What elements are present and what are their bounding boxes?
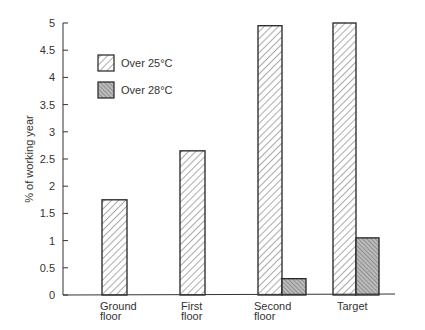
y-tick-label: 4: [49, 71, 55, 83]
legend-swatch-over25: [98, 55, 114, 71]
bar-chart: 00.511.522.533.544.55 % of working year …: [0, 0, 425, 330]
y-tick-label: 1.5: [40, 207, 55, 219]
y-tick-label: 2: [49, 180, 55, 192]
y-tick-label: 1: [49, 235, 55, 247]
y-tick-label: 0.5: [40, 262, 55, 274]
legend-label: Over 28°C: [121, 84, 173, 96]
bar-second-over25: [258, 26, 282, 295]
y-tick-label: 3: [49, 126, 55, 138]
x-category-label-line2: floor: [181, 310, 203, 322]
legend: Over 25°COver 28°C: [98, 55, 173, 98]
bar-target-over28: [356, 238, 379, 295]
y-tick-label: 4.5: [40, 44, 55, 56]
legend-swatch-over28: [98, 82, 114, 98]
y-tick-label: 5: [49, 17, 55, 29]
y-tick-label: 3.5: [40, 99, 55, 111]
bar-first-over25: [180, 151, 205, 295]
y-axis: 00.511.522.533.544.55: [40, 17, 68, 301]
y-tick-label: 2.5: [40, 153, 55, 165]
bar-second-over28: [282, 279, 306, 295]
x-category-label-line2: floor: [100, 310, 122, 322]
bar-ground-over25: [102, 200, 127, 295]
y-tick-label: 0: [49, 289, 55, 301]
x-category-label: Target: [337, 300, 368, 312]
x-axis: GroundfloorFirstfloorSecondfloorTarget: [63, 294, 395, 322]
legend-label: Over 25°C: [121, 57, 173, 69]
y-axis-title: % of working year: [23, 115, 35, 203]
bar-target-over25: [333, 23, 356, 295]
x-category-label-line2: floor: [254, 310, 276, 322]
y-axis-title-text: % of working year: [23, 115, 35, 203]
